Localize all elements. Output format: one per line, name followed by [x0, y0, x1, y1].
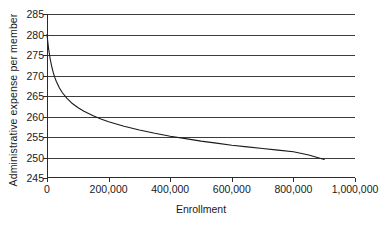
x-tick-mark	[293, 178, 294, 182]
x-tick-label: 800,000	[274, 183, 312, 195]
x-tick-label: 200,000	[90, 183, 128, 195]
x-tick-label: 600,000	[213, 183, 251, 195]
y-tick-label: 250	[18, 152, 44, 163]
x-tick-mark	[47, 178, 48, 182]
x-tick-label: 1,000,000	[332, 183, 379, 195]
x-tick-mark	[109, 178, 110, 182]
series-path-administrative-expense	[47, 35, 324, 160]
x-axis-tick-labels: 0200,000400,000600,000800,0001,000,000	[47, 183, 355, 197]
y-tick-label: 255	[18, 132, 44, 143]
y-tick-label: 275	[18, 50, 44, 61]
x-axis-title: Enrollment	[47, 203, 355, 215]
chart-container: Administrative expense per member 245250…	[0, 0, 392, 232]
y-axis-tick-labels: 245250255260265270275280285	[18, 8, 44, 186]
y-tick-label: 265	[18, 91, 44, 102]
y-tick-label: 270	[18, 70, 44, 81]
x-tick-mark	[232, 178, 233, 182]
x-tick-label: 400,000	[151, 183, 189, 195]
plot-area	[47, 14, 355, 178]
x-tick-mark	[170, 178, 171, 182]
x-tick-mark	[355, 178, 356, 182]
data-series-line	[47, 14, 355, 178]
x-tick-label: 0	[44, 183, 50, 195]
y-tick-label: 260	[18, 111, 44, 122]
y-tick-label: 285	[18, 9, 44, 20]
y-tick-label: 280	[18, 29, 44, 40]
y-tick-label: 245	[18, 173, 44, 184]
